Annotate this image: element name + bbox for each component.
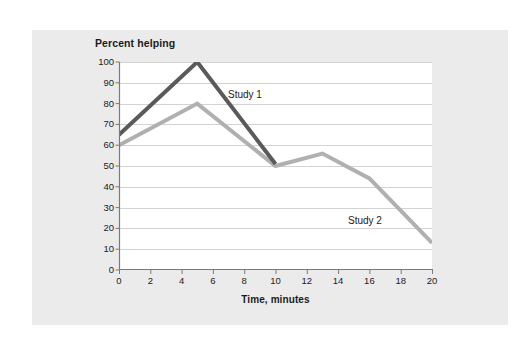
- x-tick-label: 10: [264, 276, 288, 286]
- y-tick-label: 80: [86, 99, 114, 109]
- series-annotation-study-2: Study 2: [348, 216, 382, 226]
- chart-title: Percent helping: [95, 37, 175, 49]
- y-tick-label: 60: [86, 140, 114, 150]
- axis-lines: [110, 56, 442, 280]
- x-tick-label: 18: [389, 276, 413, 286]
- y-tick-label: 70: [86, 119, 114, 129]
- x-tick-label: 6: [201, 276, 225, 286]
- x-tick-label: 8: [232, 276, 256, 286]
- x-tick-label: 2: [138, 276, 162, 286]
- y-tick-label: 0: [86, 265, 114, 275]
- x-tick-label: 12: [295, 276, 319, 286]
- x-tick-label: 16: [357, 276, 381, 286]
- y-axis-tick-labels: 0102030405060708090100: [86, 62, 114, 270]
- y-tick-label: 30: [86, 203, 114, 213]
- x-tick-label: 0: [107, 276, 131, 286]
- y-tick-label: 100: [86, 57, 114, 67]
- y-tick-label: 40: [86, 182, 114, 192]
- figure-root: Percent helping 0102030405060708090100 0…: [0, 0, 531, 344]
- series-annotation-study-1: Study 1: [228, 90, 262, 100]
- y-tick-label: 90: [86, 78, 114, 88]
- x-tick-label: 14: [326, 276, 350, 286]
- x-tick-label: 20: [420, 276, 444, 286]
- y-tick-label: 20: [86, 223, 114, 233]
- x-tick-label: 4: [170, 276, 194, 286]
- x-axis-title: Time, minutes: [119, 294, 432, 305]
- y-tick-label: 50: [86, 161, 114, 171]
- x-tick-marks: [120, 270, 433, 274]
- y-tick-label: 10: [86, 244, 114, 254]
- x-axis-tick-labels: 02468101214161820: [119, 276, 432, 290]
